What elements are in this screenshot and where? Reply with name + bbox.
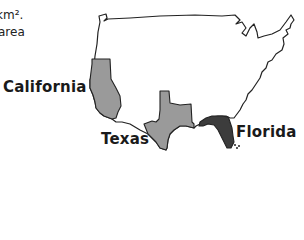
label-texas: Texas xyxy=(101,130,149,148)
florida-keys-dot xyxy=(238,145,240,147)
state-florida[interactable] xyxy=(199,116,234,148)
florida-keys-dot xyxy=(234,144,236,146)
florida-keys-dot xyxy=(236,147,238,149)
label-florida: Florida xyxy=(236,123,297,141)
label-california: California xyxy=(3,78,87,96)
